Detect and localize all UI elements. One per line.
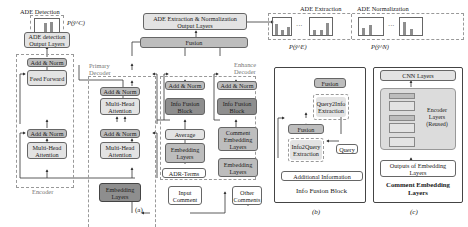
adr-embedding-layers: Embedding Layers xyxy=(165,143,205,163)
info-fusion-block-title: Info Fusion Block xyxy=(296,188,347,195)
encoder-layers-label: Encoder Layers (Reused) xyxy=(421,107,453,128)
ade-extraction-title: ADE Extraction xyxy=(300,5,341,12)
enhance-right-info-fusion-block: Info Fusion Block xyxy=(217,98,257,115)
output-distributions-frame: ··· ··· xyxy=(268,13,464,40)
primary-multi-head-attention-bottom: Multi-Head Attention xyxy=(100,142,140,159)
encoder-add-norm-bottom: Add & Norm xyxy=(27,129,67,138)
query2info-extraction: Query2Info Extraction xyxy=(316,97,346,117)
primary-decoder-label: Primary Decoder xyxy=(89,62,119,76)
encoder-multi-head-attention: Multi-Head Attention xyxy=(27,142,67,159)
comment-embedding-layers: Comment Embedding Layers xyxy=(218,127,258,151)
panel-a-caption: (a) xyxy=(135,207,143,214)
ade-detection-output-layers: ADE detection Output Layers xyxy=(24,32,70,48)
other-comments: Other Comments xyxy=(232,186,262,205)
encoder-layers-reused: Encoder Layers (Reused) xyxy=(380,88,456,150)
primary-embedding-layers: Embedding Layers xyxy=(99,183,141,202)
extraction-normalization-output-layers: ADE Extraction & Normalization Output La… xyxy=(143,13,247,30)
panel-c-caption: (c) xyxy=(410,209,418,216)
enhance-left-info-fusion-block: Info Fusion Block xyxy=(165,98,205,115)
panel-b-fusion-top: Fusion xyxy=(314,78,346,88)
panel-b-caption: (b) xyxy=(312,209,320,216)
average-block: Average xyxy=(165,129,205,140)
enhance-decoder-label: Enhance Decoder xyxy=(234,61,268,75)
encoder-label: Encoder xyxy=(32,188,53,195)
adr-terms-input: ADR-Terms xyxy=(162,168,206,178)
fusion-block: Fusion xyxy=(140,37,248,48)
input-comment: Input Comment xyxy=(168,186,202,205)
ade-detection-title: ADE Detection xyxy=(20,8,60,15)
ade-detection-probability: P(ŷ^C) xyxy=(67,19,85,26)
other-embedding-layers: Embedding Layers xyxy=(218,158,258,177)
outputs-of-embedding-layers: Outputs of Embedding Layers xyxy=(380,160,456,177)
query-input: Query xyxy=(336,144,358,154)
ade-normalization-probability: P(ŷ^N) xyxy=(371,43,389,50)
ellipsis: ··· xyxy=(388,22,394,29)
info2query-extraction: Info2Query Extraction xyxy=(290,140,322,160)
primary-add-norm-bottom: Add & Norm xyxy=(100,129,140,138)
ade-extraction-probability: P(ŷ^E) xyxy=(289,43,307,50)
enhance-right-add-norm: Add & Norm xyxy=(217,81,257,90)
ade-normalization-title: ADE Normalization xyxy=(357,5,409,12)
primary-add-norm-top: Add & Norm xyxy=(100,87,140,96)
enhance-left-add-norm: Add & Norm xyxy=(165,81,205,90)
encoder-feed-forward: Feed Forward xyxy=(27,70,67,86)
ellipsis: ··· xyxy=(296,22,302,29)
comment-embedding-title: Comment Embedding Layers xyxy=(378,181,458,196)
additional-information-input: Additional Information xyxy=(281,171,363,181)
primary-multi-head-attention-top: Multi-Head Attention xyxy=(100,98,140,115)
cnn-layers: CNN Layers xyxy=(380,70,456,81)
panel-b-fusion-mid: Fusion xyxy=(288,124,324,134)
encoder-add-norm-top: Add & Norm xyxy=(27,58,67,67)
